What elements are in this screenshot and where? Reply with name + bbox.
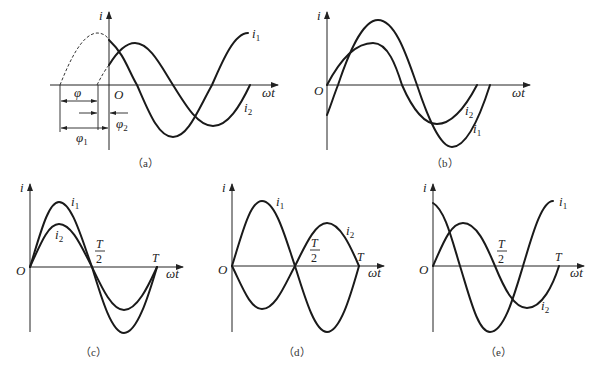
tick-half-period: T 2 xyxy=(310,236,320,265)
panel-c: i O ωt i1 i2 T 2 T （c） xyxy=(16,180,183,358)
caption-a: （a） xyxy=(132,157,159,169)
curve-label-i1: i1 xyxy=(252,26,260,43)
origin-label: O xyxy=(419,262,429,277)
panel-e: i O ωt i1 i2 T 2 T （e） xyxy=(419,180,584,358)
curve-label-i1: i1 xyxy=(71,194,79,211)
panel-a: φ φ2 φ1 i O ωt i1 i2 （a） xyxy=(50,8,278,169)
y-axis-label: i xyxy=(317,8,321,23)
tick-period: T xyxy=(555,250,563,264)
curve-i1 xyxy=(327,20,490,147)
curve-i2-dashed xyxy=(97,65,109,85)
tick-period: T xyxy=(152,251,160,265)
caption-e: （e） xyxy=(485,346,512,358)
phi2-label: φ2 xyxy=(116,116,128,133)
curve-label-i1: i1 xyxy=(559,194,567,211)
curve-label-i2: i2 xyxy=(465,103,473,120)
x-axis-label: ωt xyxy=(262,85,275,100)
panel-b: i O ωt i2 i1 （b） xyxy=(314,8,530,169)
curve-label-i1: i1 xyxy=(276,194,284,211)
caption-b: （b） xyxy=(431,157,459,169)
origin-label: O xyxy=(218,262,228,277)
caption-d: （d） xyxy=(283,346,311,358)
y-axis-label: i xyxy=(222,180,226,195)
svg-text:2: 2 xyxy=(311,251,317,265)
origin-label: O xyxy=(16,263,26,278)
svg-text:T: T xyxy=(96,237,104,251)
caption-c: （c） xyxy=(80,346,107,358)
panel-d: i O ωt i1 i2 T 2 T （d） xyxy=(218,180,384,358)
curve-label-i2: i2 xyxy=(346,223,354,240)
tick-half-period: T 2 xyxy=(497,237,507,266)
svg-text:2: 2 xyxy=(96,252,102,266)
tick-period: T xyxy=(357,250,365,264)
phi-label: φ xyxy=(74,85,81,100)
y-axis-label: i xyxy=(423,180,427,195)
x-axis-label: ωt xyxy=(512,85,525,100)
svg-text:T: T xyxy=(311,236,319,250)
origin-label: O xyxy=(114,87,124,102)
svg-text:T: T xyxy=(498,237,506,251)
phi1-label: φ1 xyxy=(76,130,88,147)
curve-label-i2: i2 xyxy=(55,227,63,244)
tick-half-period: T 2 xyxy=(95,237,105,266)
x-axis-label: ωt xyxy=(570,265,583,280)
x-axis-label: ωt xyxy=(166,266,179,281)
x-axis-label: ωt xyxy=(368,265,381,280)
curve-label-i2: i2 xyxy=(541,298,549,315)
svg-text:2: 2 xyxy=(498,252,504,266)
curve-label-i2: i2 xyxy=(244,100,252,117)
y-axis-label: i xyxy=(99,8,103,23)
curve-label-i1: i1 xyxy=(473,121,481,138)
curve-i1-dashed xyxy=(60,33,109,85)
origin-label: O xyxy=(314,83,324,98)
y-axis-label: i xyxy=(20,180,24,195)
sinusoid-figure: φ φ2 φ1 i O ωt i1 i2 （a） i O ωt i2 i1 （b… xyxy=(0,0,595,375)
